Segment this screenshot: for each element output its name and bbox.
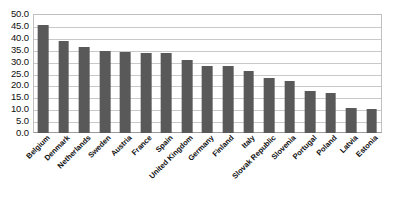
bar-slot — [341, 14, 362, 133]
bar-slot — [95, 14, 116, 133]
bar — [264, 78, 275, 133]
bar-slot — [156, 14, 177, 133]
bar — [120, 52, 131, 133]
bar — [366, 109, 377, 133]
y-axis-tick-label: 45.0 — [11, 21, 29, 31]
bar — [182, 60, 193, 133]
bar — [325, 93, 336, 133]
bar — [284, 81, 295, 133]
bar-slot — [54, 14, 75, 133]
y-axis-tick-label: 25.0 — [11, 69, 29, 79]
x-axis-tick-label: Italy — [240, 134, 256, 150]
bar — [79, 47, 90, 133]
bar-slot — [177, 14, 198, 133]
x-axis-tick-label: Poland — [315, 134, 338, 157]
bar-slot — [300, 14, 321, 133]
x-axis: BelgiumDenmarkNetherlandsSwedenAustriaFr… — [33, 134, 382, 209]
bar-slot — [197, 14, 218, 133]
bar — [223, 66, 234, 133]
bar-slot — [320, 14, 341, 133]
bar — [38, 25, 49, 133]
y-axis-tick-label: 40.0 — [11, 33, 29, 43]
bar — [58, 41, 69, 133]
y-axis-tick-label: 35.0 — [11, 45, 29, 55]
bar-slot — [136, 14, 157, 133]
bar-chart: 50.045.040.035.030.025.020.015.010.05.00… — [0, 0, 393, 209]
bar-slot — [33, 14, 54, 133]
y-axis-tick-label: 15.0 — [11, 92, 29, 102]
bar — [202, 66, 213, 133]
y-axis-tick-label: 50.0 — [11, 9, 29, 19]
bar — [346, 108, 357, 133]
y-axis-tick-label: 20.0 — [11, 80, 29, 90]
bar — [161, 53, 172, 133]
bar-slot — [74, 14, 95, 133]
bars-container — [33, 14, 382, 133]
bar-slot — [238, 14, 259, 133]
bar-slot — [361, 14, 382, 133]
y-axis-tick-label: 30.0 — [11, 57, 29, 67]
bar-slot — [115, 14, 136, 133]
bar-slot — [259, 14, 280, 133]
x-axis-tick-label: Finland — [212, 134, 237, 159]
bar — [243, 71, 254, 133]
bar-slot — [279, 14, 300, 133]
y-axis-tick-label: 10.0 — [11, 104, 29, 114]
y-axis-tick-label: 5.0 — [16, 116, 29, 126]
bar-slot — [218, 14, 239, 133]
x-axis-tick-label: France — [131, 134, 154, 157]
bar — [141, 53, 152, 133]
bar — [99, 51, 110, 133]
y-axis-tick-label: 0.0 — [16, 128, 29, 138]
bar — [305, 91, 316, 133]
x-axis-tick-label: Austria — [110, 134, 134, 158]
y-axis: 50.045.040.035.030.025.020.015.010.05.00… — [0, 0, 31, 147]
